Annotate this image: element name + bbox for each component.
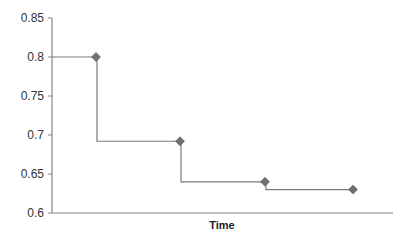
data-series xyxy=(52,53,358,195)
diamond-marker xyxy=(92,53,101,62)
x-axis-title: Time xyxy=(209,219,234,231)
diamond-marker xyxy=(176,137,185,146)
step-chart: 0.60.650.70.750.80.85 Time xyxy=(0,0,414,240)
y-tick-label: 0.8 xyxy=(27,50,44,64)
diamond-marker xyxy=(349,185,358,194)
y-axis: 0.60.650.70.750.80.85 xyxy=(21,11,52,220)
y-tick-label: 0.75 xyxy=(21,89,45,103)
step-line xyxy=(52,57,353,190)
y-tick-label: 0.85 xyxy=(21,11,45,25)
y-tick-label: 0.7 xyxy=(27,128,44,142)
y-tick-label: 0.6 xyxy=(27,206,44,220)
diamond-marker xyxy=(261,177,270,186)
y-tick-label: 0.65 xyxy=(21,167,45,181)
